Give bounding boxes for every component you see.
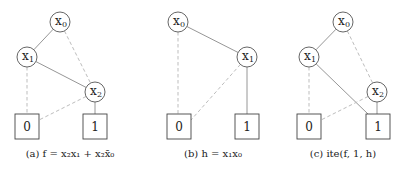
node-label: x [173,14,180,28]
terminal-c-zero: 0 [297,114,321,139]
high-edge-c-x0-x1 [316,29,336,50]
terminal-b-one: 1 [235,114,259,139]
high-edge-a-x0-x1 [34,29,53,49]
terminal-a-one: 1 [83,114,107,139]
node-subscript: 1 [311,55,316,64]
node-label: x [242,49,249,63]
terminal-label: 1 [243,120,251,134]
node-c-x2: x2 [367,82,387,102]
node-c-x0: x0 [333,12,353,32]
low-edge-c-x2-zero [321,96,368,120]
node-label: x [304,49,311,63]
node-label: x [338,14,345,28]
terminal-label: 0 [23,120,31,134]
node-label: x [22,49,29,63]
node-label: x [372,84,379,98]
terminal-a-zero: 0 [15,114,39,139]
node-b-x1: x1 [237,47,257,67]
terminal-c-one: 1 [366,114,390,139]
node-label: x [90,84,97,98]
node-b-x0: x0 [168,12,188,32]
terminal-b-zero: 0 [167,114,191,139]
terminal-label: 0 [305,120,313,134]
node-c-x1: x1 [299,47,319,67]
low-edge-b-x1-zero [191,64,240,120]
node-subscript: 2 [379,90,384,99]
node-subscript: 2 [97,90,102,99]
terminal-label: 1 [91,120,99,134]
terminal-label: 1 [374,120,382,134]
node-subscript: 0 [62,20,67,29]
high-edge-a-x1-x2 [36,62,86,88]
low-edge-a-x0-x2 [64,31,90,83]
bdd-diagram: x0x1x201x0x101x0x1x201 (a) f = x₂x₁ + x₂… [0,0,406,170]
caption-c: (c) ite(f, 1, h) [310,148,376,159]
node-subscript: 0 [180,20,185,29]
low-edge-c-x0-x2 [347,31,372,83]
caption-b: (b) h = x₁x₀ [184,148,242,159]
captions-layer: (a) f = x₂x₁ + x₂x̄₀ (b) h = x₁x₀ (c) it… [26,148,377,159]
high-edge-b-x0-x1 [187,27,238,53]
caption-a: (a) f = x₂x₁ + x₂x̄₀ [26,148,115,159]
node-subscript: 0 [345,20,350,29]
node-a-x2: x2 [85,82,105,102]
node-label: x [55,14,62,28]
terminal-label: 0 [175,120,183,134]
edges-layer [27,27,377,120]
node-subscript: 1 [29,55,34,64]
node-subscript: 1 [249,55,254,64]
node-a-x1: x1 [17,47,37,67]
high-edge-c-x1-one [316,64,368,114]
node-a-x0: x0 [50,12,70,32]
low-edge-a-x2-zero [39,96,86,120]
